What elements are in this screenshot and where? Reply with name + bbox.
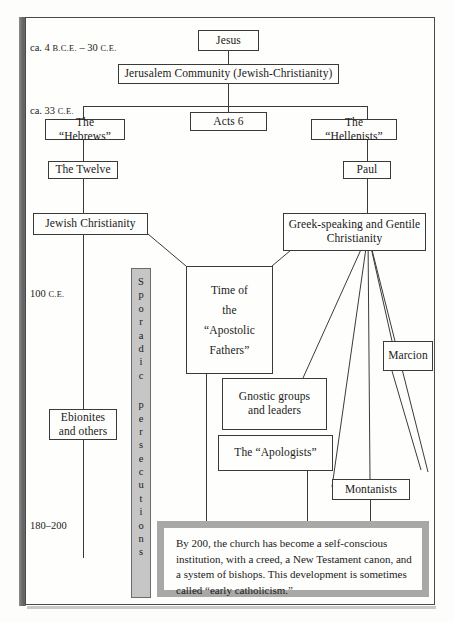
node-gnostic-groups[interactable]: Gnostic groups and leaders bbox=[222, 378, 327, 430]
persecutions-char: e bbox=[139, 414, 144, 427]
ebionites-line-2: and others bbox=[59, 425, 108, 439]
node-montanists[interactable]: Montanists bbox=[332, 479, 410, 500]
callout-text: By 200, the church has become a self-con… bbox=[164, 528, 422, 590]
connector-paul-gentilechristianity bbox=[367, 178, 368, 213]
gnostic-line-1: Gnostic groups bbox=[239, 390, 310, 404]
persecutions-char: t bbox=[140, 494, 143, 507]
connector-jesus-jerusalem bbox=[228, 51, 229, 65]
persecutions-char: i bbox=[140, 507, 143, 520]
greek-gentile-line-1: Greek-speaking and Gentile bbox=[289, 218, 421, 232]
early-catholicism-callout: By 200, the church has become a self-con… bbox=[157, 521, 429, 597]
gnostic-line-2: and leaders bbox=[248, 404, 301, 418]
persecutions-char: s bbox=[139, 440, 143, 453]
era-1-bce: B.C.E. bbox=[52, 44, 76, 53]
node-jesus[interactable]: Jesus bbox=[198, 30, 259, 51]
persecutions-char: c bbox=[139, 371, 144, 384]
persecutions-char: a bbox=[139, 331, 144, 344]
ebionites-line-1: Ebionites bbox=[61, 411, 105, 425]
persecutions-char: e bbox=[139, 454, 144, 467]
node-jerusalem-community[interactable]: Jerusalem Community (Jewish-Christianity… bbox=[118, 64, 339, 84]
persecutions-char: S bbox=[138, 277, 144, 290]
era-1-ce: C.E. bbox=[100, 44, 116, 53]
persecutions-char: s bbox=[139, 547, 143, 560]
connector-ebionites-terminus bbox=[83, 440, 84, 558]
apostolic-line-3: “Apostolic bbox=[204, 320, 255, 340]
era-1-prefix: ca. 4 bbox=[30, 42, 52, 53]
era-2-ce: C.E. bbox=[58, 107, 74, 116]
node-paul[interactable]: Paul bbox=[343, 161, 391, 179]
node-acts-6[interactable]: Acts 6 bbox=[190, 112, 267, 131]
era-label-1: ca. 4 B.C.E. – 30 C.E. bbox=[30, 42, 117, 53]
persecutions-char: p bbox=[138, 400, 143, 413]
era-1-mid: – 30 bbox=[77, 42, 101, 53]
node-greek-gentile-christianity[interactable]: Greek-speaking and Gentile Christianity bbox=[283, 213, 426, 251]
page-frame-shadow bbox=[27, 606, 436, 609]
persecutions-char: i bbox=[140, 357, 143, 370]
persecutions-char: n bbox=[138, 534, 143, 547]
node-apostolic-fathers[interactable]: Time of the “Apostolic Fathers” bbox=[186, 266, 273, 374]
persecutions-char: r bbox=[139, 427, 143, 440]
node-ebionites[interactable]: Ebionites and others bbox=[49, 409, 117, 440]
era-2-prefix: ca. 33 bbox=[30, 105, 58, 116]
node-the-twelve[interactable]: The Twelve bbox=[48, 161, 118, 179]
connector-jewishchristianity-ebionites bbox=[83, 234, 84, 409]
persecutions-char: r bbox=[139, 317, 143, 330]
era-4-range: 180–200 bbox=[30, 520, 67, 531]
node-the-hellenists[interactable]: The “Hellenists” bbox=[311, 119, 397, 140]
persecutions-char: c bbox=[139, 467, 144, 480]
era-label-4: 180–200 bbox=[30, 520, 67, 531]
persecutions-char: o bbox=[138, 521, 143, 534]
persecutions-char: p bbox=[138, 290, 143, 303]
apostolic-line-1: Time of bbox=[211, 280, 248, 300]
greek-gentile-line-2: Christianity bbox=[327, 232, 383, 246]
node-marcion[interactable]: Marcion bbox=[383, 341, 433, 371]
persecutions-char: d bbox=[138, 344, 143, 357]
node-the-apologists[interactable]: The “Apologists” bbox=[218, 435, 333, 471]
persecutions-char: u bbox=[138, 480, 143, 493]
era-3-ce: C.E. bbox=[48, 290, 64, 299]
era-3-prefix: 100 bbox=[30, 288, 48, 299]
era-label-2: ca. 33 C.E. bbox=[30, 105, 74, 116]
connector-jerusalem-bus bbox=[228, 84, 229, 106]
node-jewish-christianity[interactable]: Jewish Christianity bbox=[33, 213, 148, 235]
sporadic-persecutions-bar: S p o r a d i c p e r s e c u t i o n s bbox=[131, 268, 151, 598]
apostolic-line-2: the bbox=[222, 300, 236, 320]
connector-bus-horizontal bbox=[83, 106, 367, 107]
era-label-3: 100 C.E. bbox=[30, 288, 64, 299]
connector-apologists-callout bbox=[307, 471, 308, 523]
node-the-hebrews[interactable]: The “Hebrews” bbox=[45, 119, 125, 140]
connector-twelve-jewishchristianity bbox=[83, 178, 84, 213]
apostolic-line-4: Fathers” bbox=[210, 340, 250, 360]
connector-apostolicfathers-callout bbox=[206, 374, 207, 524]
persecutions-char: o bbox=[138, 304, 143, 317]
chart-page: ca. 4 B.C.E. – 30 C.E. ca. 33 C.E. 100 C… bbox=[0, 0, 454, 622]
